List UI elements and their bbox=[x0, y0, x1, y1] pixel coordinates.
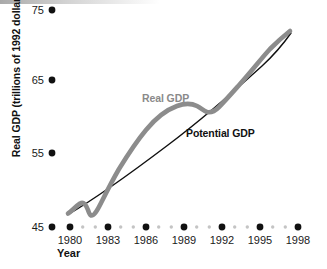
x-tick-label-1995: 1995 bbox=[243, 235, 277, 246]
real-gdp-series-label: Real GDP bbox=[142, 92, 189, 104]
y-axis-title: Real GDP (trillions of 1992 dollars) bbox=[10, 0, 22, 158]
y-axis-tick-dots bbox=[49, 7, 56, 231]
real-gdp-line bbox=[68, 31, 290, 216]
x-tick-label-1998: 1998 bbox=[281, 235, 315, 246]
y-axis-title-wrapper: Real GDP (trillions of 1992 dollars) bbox=[10, 0, 28, 158]
y-tick-label-45: 45 bbox=[22, 222, 44, 233]
x-axis-title: Year bbox=[57, 247, 80, 259]
x-tick-label-1992: 1992 bbox=[205, 235, 239, 246]
plot-area bbox=[0, 0, 327, 269]
chart-figure: 75 65 55 45 1980 1983 1986 1989 1992 199… bbox=[0, 0, 327, 269]
x-tick-label-1980: 1980 bbox=[53, 235, 87, 246]
potential-gdp-series-label: Potential GDP bbox=[186, 127, 255, 139]
x-axis-major-tick-dots bbox=[67, 224, 302, 231]
x-tick-label-1983: 1983 bbox=[91, 235, 125, 246]
x-tick-label-1986: 1986 bbox=[129, 235, 163, 246]
x-tick-label-1989: 1989 bbox=[167, 235, 201, 246]
